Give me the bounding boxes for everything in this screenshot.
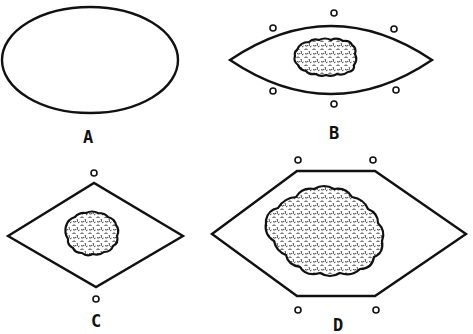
- marker-dot: [331, 10, 337, 16]
- marker-dot: [270, 25, 276, 31]
- marker-dot: [393, 87, 399, 93]
- marker-dot: [93, 296, 99, 302]
- marker-dot: [331, 101, 337, 107]
- panel-label-d: D: [333, 315, 343, 334]
- panel-label-a: A: [83, 127, 93, 147]
- marker-dot: [270, 88, 276, 94]
- marker-dot: [373, 307, 379, 313]
- marker-dot: [370, 157, 376, 163]
- marker-dot: [295, 307, 301, 313]
- diagram-canvas: A B C D: [0, 0, 473, 334]
- panel-a: A: [2, 7, 178, 147]
- marker-dot: [391, 26, 397, 32]
- mass-blob: [65, 212, 118, 256]
- panel-label-b: B: [329, 123, 339, 143]
- panel-d: D: [212, 157, 466, 334]
- mass-blob: [294, 39, 356, 76]
- panel-b: B: [230, 10, 432, 143]
- ellipse-outline: [2, 7, 178, 113]
- marker-dot: [91, 170, 97, 176]
- panel-label-c: C: [91, 311, 101, 331]
- marker-dot: [295, 157, 301, 163]
- panel-c: C: [8, 170, 183, 331]
